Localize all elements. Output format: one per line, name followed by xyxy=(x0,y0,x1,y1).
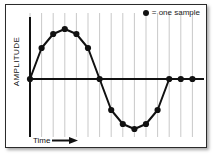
sample-point xyxy=(39,45,45,51)
sample-point xyxy=(108,107,114,113)
right-arrow-icon xyxy=(52,137,78,144)
sample-point xyxy=(62,26,68,32)
waveform-plot xyxy=(6,5,208,149)
sample-point xyxy=(189,76,195,82)
sample-point xyxy=(178,76,184,82)
diagram-frame: = one sample AMPLITUDE Time xyxy=(5,4,207,148)
x-axis-label: Time xyxy=(33,136,50,145)
sample-point xyxy=(155,107,161,113)
sample-point xyxy=(85,45,91,51)
filled-circle-icon xyxy=(143,10,149,16)
y-axis-label: AMPLITUDE xyxy=(12,30,21,94)
sample-point xyxy=(73,31,79,37)
sample-point xyxy=(50,31,56,37)
sample-point xyxy=(27,76,33,82)
legend: = one sample xyxy=(143,8,200,17)
sample-point xyxy=(97,76,103,82)
sampling-diagram: = one sample AMPLITUDE Time xyxy=(0,0,214,156)
x-axis-label-group: Time xyxy=(33,136,78,145)
sample-point xyxy=(120,121,126,127)
sample-point xyxy=(131,126,137,132)
sample-point xyxy=(166,76,172,82)
legend-label: = one sample xyxy=(152,8,200,17)
sample-point xyxy=(143,121,149,127)
